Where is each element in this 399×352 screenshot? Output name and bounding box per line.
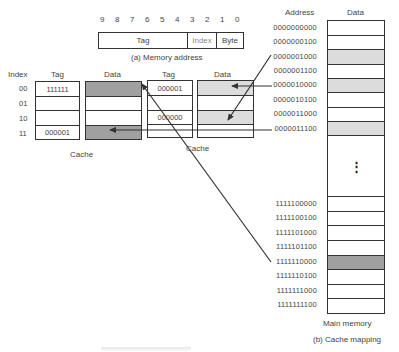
memory-cell [328,226,384,241]
tag-cell: 000001 [36,126,79,139]
bit-number: 0 [235,16,239,24]
memory-address: 0000001100 [274,67,317,75]
data-header: Data [347,9,364,17]
memory-cell [328,21,384,36]
memory-cell-shaded [328,50,384,65]
memory-cell [328,241,384,256]
data-cell-shaded [198,81,253,96]
bit-number: 1 [220,16,224,24]
cache-right-tag-column: 000001 000000 [147,80,193,138]
index-label: 11 [19,130,27,138]
memory-address-caption: (a) Memory address [131,54,203,62]
data-cell [198,96,253,111]
tag-cell [148,96,192,111]
memory-address: 1111101100 [276,243,317,251]
memory-address: 0000010000 [273,81,317,89]
data-cell [198,125,253,137]
cache-left-data-column [85,81,142,140]
memory-address: 0000000000 [273,24,317,32]
tag-cell [36,97,79,111]
cache-right-data-column [197,80,254,138]
data-cell-shaded [86,82,141,97]
tag-header: Tag [51,71,64,79]
main-memory-data-column: ⋮ [327,20,385,314]
memory-cell [328,270,384,285]
index-field-label: Index [192,37,212,45]
memory-cell [328,65,384,79]
memory-address: 1111100100 [276,214,318,222]
address-field-box: Tag Index Byte [98,32,244,49]
tag-header: Tag [162,71,175,79]
bit-number: 5 [160,16,164,24]
cache-mapping-caption: (b) Cache mapping [313,336,381,344]
bit-number: 2 [205,16,209,24]
memory-address: 0000001000 [273,53,317,61]
data-cell-shaded [86,126,141,139]
cache-right-label: Cache [186,145,209,153]
bit-number: 3 [190,16,194,24]
tag-cell [36,111,79,126]
memory-address: 1111111100 [277,301,317,309]
memory-cell [328,285,384,299]
tag-cell [148,125,192,137]
bit-number: 7 [130,16,134,24]
memory-address: 0000011100 [274,125,317,133]
bit-number: 4 [175,16,179,24]
tag-field: Tag [99,33,188,48]
memory-cell [328,108,384,122]
memory-cell-shaded [328,79,384,93]
cache-left-tag-column: 111111 000001 [35,81,80,140]
address-header: Address [285,9,314,17]
tag-cell: 000001 [148,81,192,96]
index-label: 00 [19,85,27,93]
memory-cell [328,197,384,212]
tag-cell: 111111 [36,82,79,97]
memory-address: 0000011000 [274,110,317,118]
memory-address: 0000010100 [273,96,317,104]
bit-number: 8 [115,16,119,24]
memory-address: 1111110000 [276,258,317,266]
tag-cell: 000000 [148,111,192,125]
data-header: Data [104,71,121,79]
memory-cell [328,93,384,108]
bit-number: 6 [145,16,149,24]
memory-address: 0000000100 [273,38,317,46]
memory-cell-shaded [328,122,384,136]
index-label: 01 [19,100,27,108]
memory-ellipsis-block: ⋮ [328,136,384,197]
data-cell [86,97,141,111]
byte-field-label: Byte [222,37,238,45]
memory-address: 1111100000 [276,200,318,208]
main-memory-label: Main memory [323,320,371,328]
data-cell [86,111,141,126]
tag-field-label: Tag [137,37,150,45]
bit-number: 9 [100,16,104,24]
cache-left-label: Cache [70,151,93,159]
index-field: Index [188,33,217,48]
index-header: Index [8,71,28,79]
memory-cell [328,299,384,313]
data-cell-shaded [198,111,253,125]
memory-address: 1111101000 [276,229,318,237]
memory-address: 1111110100 [276,272,317,280]
index-label: 10 [19,115,27,123]
memory-cell-shaded [328,256,384,270]
byte-field: Byte [217,33,243,48]
cut-off-caption-fragment [101,347,191,352]
memory-address: 1111111000 [277,287,317,295]
memory-cell [328,212,384,226]
data-header: Data [214,71,231,79]
memory-cell [328,36,384,50]
